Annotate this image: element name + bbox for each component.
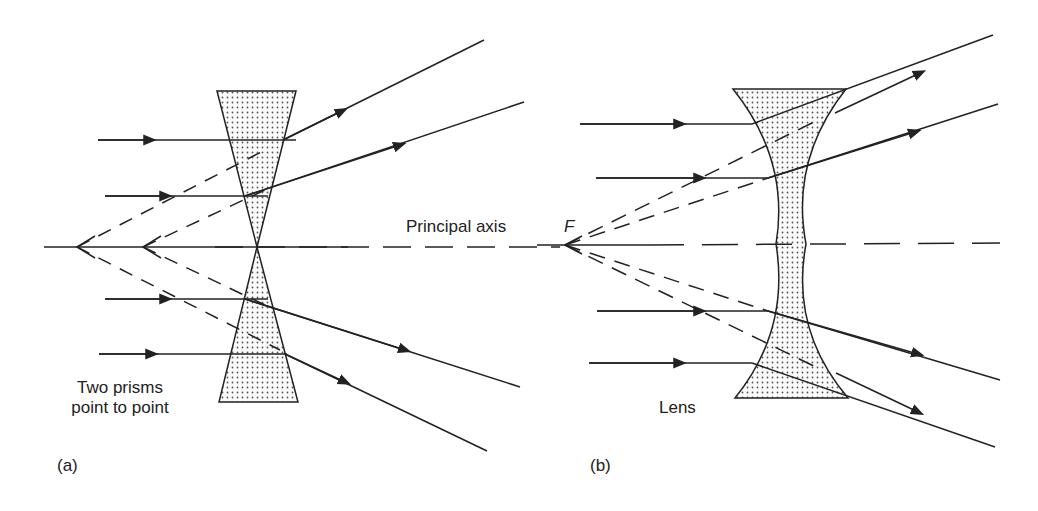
panel-b-caption: (b) xyxy=(590,456,611,476)
focal-point-label: F xyxy=(564,217,574,237)
principal-axis-label: Principal axis xyxy=(406,217,506,237)
prisms-label-line2: point to point xyxy=(56,398,184,418)
lens-label: Lens xyxy=(659,398,696,418)
ray-b4-out xyxy=(752,363,995,447)
prisms-label: Two prisms point to point xyxy=(56,378,184,418)
prisms-label-line1: Two prisms xyxy=(56,378,184,398)
ray-b1-out xyxy=(752,35,993,124)
panel-a-caption: (a) xyxy=(57,456,78,476)
diagram-canvas xyxy=(0,0,1038,511)
